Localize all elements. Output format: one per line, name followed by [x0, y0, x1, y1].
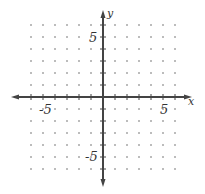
grid-dot: [174, 48, 176, 50]
y-axis-down-arrow-icon: [101, 179, 106, 187]
grid-dot: [78, 84, 80, 86]
grid-dot: [78, 156, 80, 158]
grid-dot: [162, 24, 164, 26]
grid-dot: [138, 24, 140, 26]
grid-dot: [54, 144, 56, 146]
grid-dot: [162, 132, 164, 134]
grid-dot: [126, 108, 128, 110]
grid-dot: [66, 132, 68, 134]
grid-dot: [174, 60, 176, 62]
grid-dot: [54, 168, 56, 170]
grid-dot: [66, 120, 68, 122]
grid-dot: [78, 72, 80, 74]
y-axis-up-arrow-icon: [101, 10, 106, 18]
grid-dot: [78, 168, 80, 170]
y-axis: [100, 10, 106, 187]
grid-dot: [54, 132, 56, 134]
grid-dot: [54, 24, 56, 26]
grid-dot: [114, 48, 116, 50]
grid-dot: [126, 144, 128, 146]
grid-dot: [114, 120, 116, 122]
grid-dot: [78, 36, 80, 38]
x-tick-label-pos5: 5: [160, 102, 168, 117]
grid-dot: [42, 48, 44, 50]
grid-dot: [42, 60, 44, 62]
grid-dot: [162, 168, 164, 170]
grid-dot: [78, 60, 80, 62]
grid-dot: [150, 24, 152, 26]
grid-dot: [42, 120, 44, 122]
grid-dot: [114, 168, 116, 170]
grid-dot: [66, 36, 68, 38]
grid-dot: [138, 144, 140, 146]
grid-dot: [150, 60, 152, 62]
grid-dot: [54, 84, 56, 86]
grid-dot: [78, 120, 80, 122]
grid-dot: [162, 84, 164, 86]
grid-dot: [126, 168, 128, 170]
grid-dot: [174, 132, 176, 134]
grid-dot: [90, 120, 92, 122]
grid-dot: [114, 36, 116, 38]
grid-dot: [42, 36, 44, 38]
grid-dot: [78, 132, 80, 134]
grid-dot: [174, 36, 176, 38]
grid-dot: [30, 24, 32, 26]
grid-dot: [114, 108, 116, 110]
grid-dot: [114, 24, 116, 26]
grid-dot: [162, 36, 164, 38]
grid-dot: [90, 132, 92, 134]
grid-dot: [90, 24, 92, 26]
grid-dot: [162, 120, 164, 122]
grid-dot: [126, 24, 128, 26]
grid-dot: [138, 36, 140, 38]
grid-dot: [42, 168, 44, 170]
grid-dot: [78, 144, 80, 146]
grid-dot: [66, 48, 68, 50]
grid-dot: [138, 132, 140, 134]
grid-dot: [174, 84, 176, 86]
grid-dot: [162, 60, 164, 62]
grid-dot: [54, 48, 56, 50]
grid-dot: [30, 84, 32, 86]
grid-dot: [174, 72, 176, 74]
grid-dot: [90, 168, 92, 170]
grid-dot: [162, 156, 164, 158]
grid-dot: [30, 156, 32, 158]
grid-dot: [42, 132, 44, 134]
grid-dot: [174, 120, 176, 122]
grid-dot: [162, 48, 164, 50]
y-axis-label: y: [106, 7, 114, 20]
grid-dot: [114, 60, 116, 62]
grid-dot: [30, 120, 32, 122]
grid-dot: [42, 72, 44, 74]
grid-dot: [66, 24, 68, 26]
grid-dot: [114, 72, 116, 74]
grid-dot: [54, 120, 56, 122]
grid-dot: [150, 84, 152, 86]
grid-dot: [90, 108, 92, 110]
grid-dot: [138, 120, 140, 122]
grid-dot: [90, 84, 92, 86]
grid-dot: [54, 36, 56, 38]
grid-dot: [126, 72, 128, 74]
grid-dot: [162, 144, 164, 146]
grid-dot: [54, 72, 56, 74]
grid-dot: [174, 24, 176, 26]
grid-dot: [66, 168, 68, 170]
grid-dot: [30, 144, 32, 146]
y-tick-label-pos5: 5: [89, 30, 97, 45]
grid-dot: [30, 168, 32, 170]
grid-dot: [42, 84, 44, 86]
grid-dot: [150, 48, 152, 50]
grid-dot: [150, 108, 152, 110]
grid-dot: [90, 72, 92, 74]
grid-dot: [114, 132, 116, 134]
grid-dot: [126, 84, 128, 86]
x-axis-left-arrow-icon: [11, 95, 19, 100]
grid-dot: [78, 24, 80, 26]
x-axis: [11, 94, 192, 100]
grid-dot: [30, 72, 32, 74]
grid-dot: [66, 144, 68, 146]
grid-dot: [138, 60, 140, 62]
